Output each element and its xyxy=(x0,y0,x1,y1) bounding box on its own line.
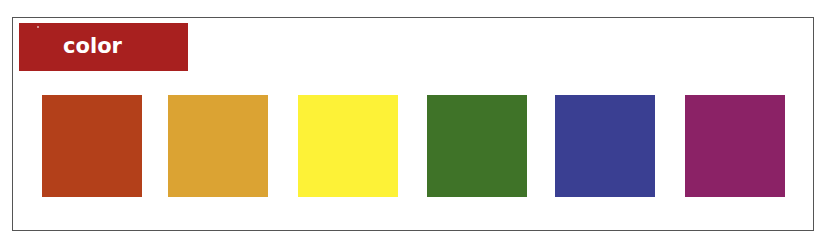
swatch-blue xyxy=(555,95,655,197)
swatch-gold xyxy=(168,95,268,197)
swatch-green xyxy=(427,95,527,197)
swatch-purple xyxy=(685,95,785,197)
banner-speck xyxy=(37,26,39,28)
swatch-yellow xyxy=(298,95,398,197)
swatch-red-orange xyxy=(42,95,142,197)
color-header-banner: color xyxy=(19,23,188,71)
header-title: color xyxy=(63,34,122,58)
